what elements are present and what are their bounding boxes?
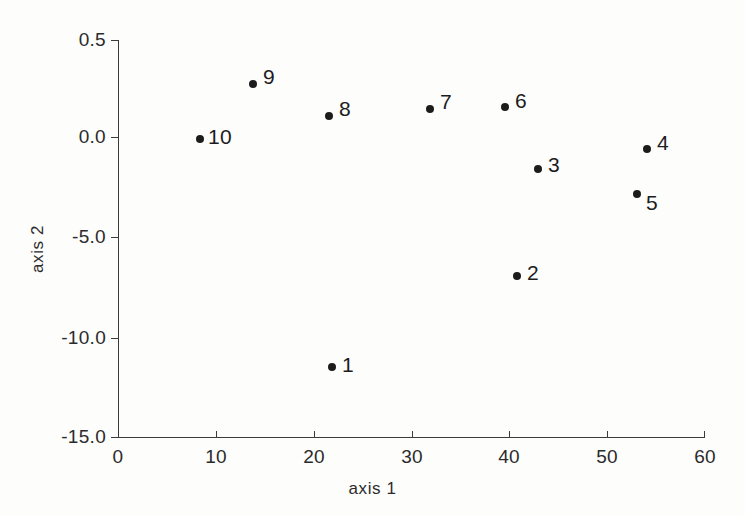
data-point-label-8: 8 xyxy=(339,97,351,121)
data-point-4 xyxy=(643,145,651,153)
y-tick-label-0: 0.5 xyxy=(36,29,106,51)
x-tick-4 xyxy=(509,431,510,438)
data-point-label-4: 4 xyxy=(657,131,669,155)
y-tick-label-4: -15.0 xyxy=(36,426,106,448)
y-tick-4 xyxy=(111,437,118,438)
data-point-label-6: 6 xyxy=(515,89,527,113)
y-tick-1 xyxy=(111,137,118,138)
x-tick-label-3: 30 xyxy=(382,446,442,468)
data-point-9 xyxy=(249,80,257,88)
y-axis-line xyxy=(118,40,119,438)
x-tick-label-2: 20 xyxy=(284,446,344,468)
data-point-10 xyxy=(196,135,204,143)
x-tick-label-0: 0 xyxy=(88,446,148,468)
data-point-6 xyxy=(501,103,509,111)
y-tick-2 xyxy=(111,237,118,238)
x-tick-label-1: 10 xyxy=(186,446,246,468)
data-point-2 xyxy=(513,272,521,280)
x-tick-label-5: 50 xyxy=(577,446,637,468)
x-tick-0 xyxy=(118,431,119,438)
y-tick-label-3: -10.0 xyxy=(36,327,106,349)
x-tick-5 xyxy=(607,431,608,438)
x-tick-label-4: 40 xyxy=(479,446,539,468)
data-point-8 xyxy=(325,112,333,120)
y-tick-3 xyxy=(111,338,118,339)
y-axis-title: axis 2 xyxy=(28,189,48,309)
x-axis-right-cap-tick xyxy=(704,431,705,438)
y-tick-label-1: 0.0 xyxy=(36,126,106,148)
y-tick-0 xyxy=(111,40,118,41)
data-point-label-2: 2 xyxy=(527,261,539,285)
data-point-1 xyxy=(328,363,336,371)
data-point-label-5: 5 xyxy=(646,191,658,215)
data-point-3 xyxy=(534,165,542,173)
x-tick-2 xyxy=(314,431,315,438)
data-point-label-1: 1 xyxy=(342,353,354,377)
x-tick-label-6: 60 xyxy=(675,446,735,468)
data-point-label-10: 10 xyxy=(208,125,232,149)
x-tick-3 xyxy=(412,431,413,438)
x-axis-title: axis 1 xyxy=(0,479,745,499)
data-point-label-3: 3 xyxy=(548,153,560,177)
x-tick-1 xyxy=(216,431,217,438)
scatter-plot-figure: 0.50.0-5.0-10.0-15.0 0102030405060 12345… xyxy=(0,0,745,516)
data-point-label-9: 9 xyxy=(263,65,275,89)
data-point-5 xyxy=(633,190,641,198)
data-point-7 xyxy=(426,105,434,113)
data-point-label-7: 7 xyxy=(440,90,452,114)
